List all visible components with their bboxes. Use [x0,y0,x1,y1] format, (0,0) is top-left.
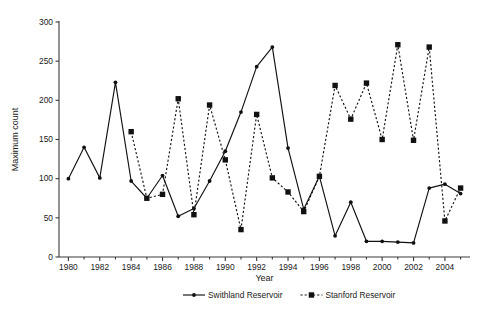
y-tick-label: 250 [39,56,53,66]
data-point-marker [82,145,86,149]
data-point-marker [98,176,102,180]
x-tick-label: 1982 [90,262,109,272]
x-tick-label: 1996 [310,262,329,272]
data-point-marker [114,80,118,84]
data-point-marker [270,175,275,180]
data-point-marker [144,196,149,201]
data-point-marker [238,227,243,232]
data-point-marker [254,112,259,117]
data-point-marker [459,192,463,196]
data-point-marker [223,157,228,162]
y-axis-title: Maximum count [10,107,20,171]
y-tick-label: 50 [44,213,54,223]
data-point-marker [176,96,181,101]
data-point-marker [395,42,400,47]
x-tick-label: 1980 [59,262,78,272]
data-point-marker [161,174,165,178]
data-point-marker [412,241,416,245]
x-tick-label: 1988 [185,262,204,272]
y-tick-label: 100 [39,173,53,183]
data-point-marker [427,186,431,190]
data-point-marker [427,44,432,49]
data-point-marker [128,129,133,134]
legend-marker-circle [192,293,196,297]
legend-marker-square [309,292,314,297]
x-tick-label: 2004 [436,262,455,272]
data-point-marker [160,192,165,197]
data-point-marker [443,182,447,186]
x-tick-label: 1992 [247,262,266,272]
data-point-marker [333,234,337,238]
chart-container: 050100150200250300 198019821984198619881… [0,0,490,310]
line-chart: 050100150200250300 198019821984198619881… [0,0,490,310]
y-tick-label: 200 [39,95,53,105]
y-axis: 050100150200250300 [39,17,59,262]
x-tick-label: 1986 [153,262,172,272]
data-point-marker [67,177,71,181]
data-point-marker [255,65,259,69]
data-point-marker [317,174,322,179]
data-point-marker [348,116,353,121]
data-point-marker [191,212,196,217]
data-point-marker [286,146,290,150]
data-point-marker [207,102,212,107]
x-tick-label: 1990 [216,262,235,272]
data-point-marker [176,214,180,218]
legend-label-1: Stanford Reservoir [325,290,395,300]
x-axis: 1980198219841986198819901992199419961998… [59,257,470,272]
data-point-marker [349,200,353,204]
x-axis-title: Year [255,273,273,283]
x-tick-label: 2002 [404,262,423,272]
chart-legend: Swithland ReservoirStanford Reservoir [183,290,395,300]
data-point-marker [365,239,369,243]
data-point-marker [239,110,243,114]
data-point-marker [270,45,274,49]
legend-label-0: Swithland Reservoir [208,290,283,300]
x-tick-label: 2000 [373,262,392,272]
data-point-marker [285,189,290,194]
x-tick-label: 1998 [341,262,360,272]
data-point-marker [129,179,133,183]
y-tick-label: 0 [48,252,53,262]
y-tick-label: 300 [39,17,53,27]
data-point-marker [411,138,416,143]
data-point-marker [442,218,447,223]
data-point-marker [208,179,212,183]
data-point-marker [458,185,463,190]
series-layer [67,42,464,245]
data-point-marker [364,80,369,85]
series-line-1 [131,45,460,230]
x-tick-label: 1994 [279,262,298,272]
y-tick-label: 150 [39,134,53,144]
data-point-marker [223,149,227,153]
data-point-marker [301,209,306,214]
x-tick-label: 1984 [122,262,141,272]
data-point-marker [332,83,337,88]
data-point-marker [380,239,384,243]
data-point-marker [396,240,400,244]
data-point-marker [379,137,384,142]
